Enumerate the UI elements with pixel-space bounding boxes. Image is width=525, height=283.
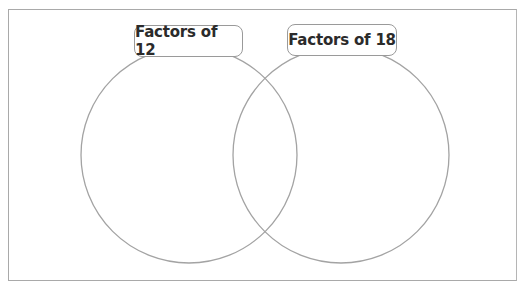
venn-diagram [0,0,525,283]
set-label-factors-of-12: Factors of 12 [134,25,243,57]
set-label-factors-of-18: Factors of 18 [287,24,397,56]
